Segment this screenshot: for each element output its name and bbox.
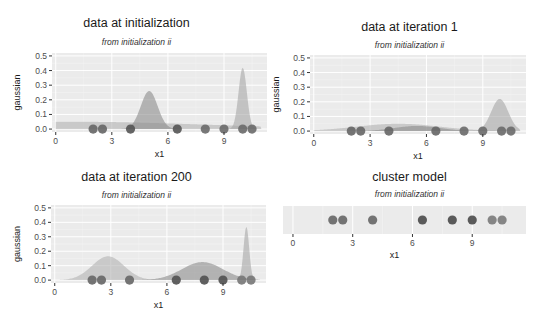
- density-plot: 0.00.10.20.30.40.50369x1gaussian: [0, 0, 273, 163]
- x-tick-label: 0: [291, 238, 296, 248]
- data-point: [431, 126, 440, 135]
- x-tick-label: 3: [350, 238, 355, 248]
- cluster-point: [368, 215, 377, 224]
- x-axis-label: x1: [413, 151, 423, 161]
- density-plot: 0.00.10.20.30.40.50369x1gaussian: [0, 163, 273, 326]
- data-point: [89, 124, 98, 133]
- data-point: [497, 126, 506, 135]
- x-axis-label: x1: [155, 149, 165, 159]
- cluster-point: [497, 215, 506, 224]
- data-point: [246, 276, 255, 285]
- data-point: [200, 276, 209, 285]
- data-point: [459, 126, 468, 135]
- data-point: [173, 124, 182, 133]
- y-tick-label: 0.0: [34, 275, 46, 285]
- data-point: [98, 124, 107, 133]
- data-point: [384, 126, 393, 135]
- data-point: [88, 276, 97, 285]
- y-axis-label: gaussian: [271, 76, 281, 112]
- x-tick-label: 9: [222, 136, 227, 146]
- panel-iteration-1: data at iteration 1 from initialization …: [273, 0, 546, 163]
- x-axis-label: x1: [390, 250, 400, 260]
- x-tick-label: 3: [368, 138, 373, 148]
- data-point: [125, 276, 134, 285]
- data-point: [238, 124, 247, 133]
- y-tick-label: 0.0: [35, 124, 47, 134]
- y-tick-label: 0.5: [34, 203, 46, 213]
- y-tick-label: 0.4: [35, 66, 47, 76]
- y-tick-label: 0.2: [293, 97, 305, 107]
- y-tick-label: 0.4: [293, 68, 305, 78]
- data-point: [506, 126, 515, 135]
- cluster-point: [328, 215, 337, 224]
- x-tick-label: 6: [424, 138, 429, 148]
- y-tick-label: 0.1: [35, 109, 47, 119]
- y-tick-label: 0.5: [293, 53, 305, 63]
- y-tick-label: 0.3: [34, 232, 46, 242]
- x-tick-label: 0: [53, 136, 58, 146]
- cluster-strip-plot: 0369x1: [273, 163, 546, 326]
- x-tick-label: 0: [311, 138, 316, 148]
- y-axis-label: gaussian: [12, 74, 22, 110]
- data-point: [247, 124, 256, 133]
- x-axis-label: x1: [154, 300, 164, 310]
- cluster-point: [448, 215, 457, 224]
- panel-cluster-model: cluster model from initialization ii 036…: [273, 163, 546, 326]
- x-tick-label: 3: [109, 136, 114, 146]
- x-tick-label: 3: [108, 287, 113, 297]
- cluster-point: [418, 215, 427, 224]
- density-plot: 0.00.10.20.30.40.50369x1gaussian: [273, 0, 546, 163]
- cluster-point: [488, 215, 497, 224]
- x-tick-label: 6: [165, 287, 170, 297]
- cluster-point: [338, 215, 347, 224]
- y-tick-label: 0.3: [35, 80, 47, 90]
- y-tick-label: 0.2: [35, 95, 47, 105]
- data-point: [356, 126, 365, 135]
- x-tick-label: 9: [480, 138, 485, 148]
- y-tick-label: 0.5: [35, 51, 47, 61]
- y-tick-label: 0.4: [34, 217, 46, 227]
- x-tick-label: 9: [221, 287, 226, 297]
- data-point: [172, 276, 181, 285]
- y-tick-label: 0.1: [293, 111, 305, 121]
- x-tick-label: 6: [410, 238, 415, 248]
- y-axis-label: gaussian: [12, 226, 22, 262]
- panel-initialization: data at initialization from initializati…: [0, 0, 273, 163]
- y-tick-label: 0.0: [293, 126, 305, 136]
- x-tick-label: 6: [166, 136, 171, 146]
- y-tick-label: 0.3: [293, 82, 305, 92]
- cluster-point: [468, 215, 477, 224]
- y-tick-label: 0.1: [34, 261, 46, 271]
- panel-iteration-200: data at iteration 200 from initializatio…: [0, 163, 273, 326]
- data-point: [347, 126, 356, 135]
- data-point: [237, 276, 246, 285]
- data-point: [126, 124, 135, 133]
- x-tick-label: 9: [470, 238, 475, 248]
- data-point: [201, 124, 210, 133]
- data-point: [97, 276, 106, 285]
- x-tick-label: 0: [52, 287, 57, 297]
- y-tick-label: 0.2: [34, 246, 46, 256]
